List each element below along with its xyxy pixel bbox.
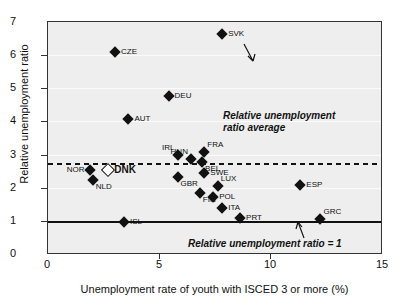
- y-tick-label-1: 1: [0, 214, 16, 226]
- y-tick-label-7: 7: [0, 15, 16, 27]
- gridline-6: [48, 55, 381, 56]
- unity-line-annotation: Relative unemployment ratio = 1: [188, 238, 342, 250]
- marker-svk-icon: [217, 28, 228, 39]
- data-point-label-ita: ITA: [228, 203, 240, 212]
- gridline-5: [48, 88, 381, 89]
- marker-isl-icon: [118, 217, 129, 228]
- data-point-label-gbr: GBR: [181, 179, 198, 188]
- average-line-annotation: Relative unemployment ratio average: [223, 110, 335, 134]
- data-point-label-fra: FRA: [207, 140, 223, 149]
- data-point-label-pol: POL: [219, 192, 235, 201]
- average-annotation-line-2: ratio average: [223, 122, 335, 134]
- x-tick-label-0: 0: [35, 258, 59, 270]
- y-tick-label-6: 6: [0, 48, 16, 60]
- marker-dnk-icon: [101, 163, 115, 177]
- y-tick-label-5: 5: [0, 81, 16, 93]
- data-point-label-nor: NOR: [67, 165, 85, 174]
- data-point-label-grc: GRC: [323, 207, 341, 216]
- data-point-label-isl: ISL: [130, 217, 142, 226]
- average-annotation-line-1: Relative unemployment: [223, 110, 335, 122]
- x-tick-label-15: 15: [370, 258, 394, 270]
- marker-esp-icon: [295, 179, 306, 190]
- data-point-label-aut: AUT: [134, 114, 150, 123]
- data-point-label-esp: ESP: [306, 180, 322, 189]
- marker-ita-icon: [217, 202, 228, 213]
- unity-leader-arrowhead: [296, 222, 302, 229]
- plot-area: SVKCZEDEUAUTFRAIRLHUNBELDNKNORSWEGBRNLDE…: [47, 21, 382, 254]
- data-point-label-prt: PRT: [246, 213, 262, 222]
- unity-reference-line: [48, 221, 381, 223]
- data-point-label-svk: SVK: [228, 29, 244, 38]
- y-axis-title: Relative unemployment ratio: [18, 0, 30, 234]
- x-tick-mark-5: [159, 254, 160, 259]
- gridline-3: [48, 155, 381, 156]
- y-tick-label-0: 0: [0, 247, 16, 259]
- x-axis-title: Unemployment rate of youth with ISCED 3 …: [47, 283, 382, 295]
- x-tick-label-5: 5: [147, 258, 171, 270]
- data-point-label-deu: DEU: [175, 91, 192, 100]
- y-tick-label-3: 3: [0, 148, 16, 160]
- data-point-label-dnk: DNK: [114, 165, 136, 174]
- marker-nor-icon: [85, 165, 96, 176]
- scatter-chart: Relative unemployment ratio 0 1 2 3 4 5 …: [0, 0, 402, 308]
- average-leader-line: [244, 44, 253, 61]
- x-tick-mark-10: [270, 254, 271, 259]
- x-tick-label-10: 10: [258, 258, 282, 270]
- data-point-label-nld: NLD: [96, 182, 112, 191]
- data-point-label-cze: CZE: [121, 47, 137, 56]
- data-point-label-lux: LUX: [221, 174, 237, 183]
- y-tick-label-2: 2: [0, 181, 16, 193]
- unity-leader-line: [298, 222, 304, 238]
- y-tick-label-4: 4: [0, 114, 16, 126]
- data-point-label-hun: HUN: [171, 147, 188, 156]
- marker-deu-icon: [163, 91, 174, 102]
- marker-aut-icon: [123, 113, 134, 124]
